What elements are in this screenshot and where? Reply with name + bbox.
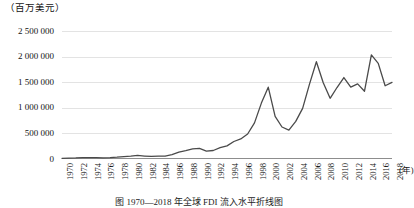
y-axis-tick-label: 1 000 000 (0, 103, 54, 112)
series-line-chart (62, 31, 392, 159)
x-axis-tick-label: 1988 (190, 163, 199, 180)
x-axis-tick-label: 1984 (162, 163, 171, 180)
x-axis-tick-label: 1990 (204, 163, 213, 180)
x-axis-tick-label: 2000 (272, 163, 281, 180)
x-axis-tick-label: 2006 (314, 163, 323, 180)
x-axis-tick-label: 2010 (341, 163, 350, 180)
x-axis-unit-label: (年) (399, 166, 414, 175)
y-axis-tick-label: 500 000 (0, 129, 54, 138)
x-axis-tick-label: 2004 (300, 163, 309, 180)
figure-caption: 图 1970—2018 年全球 FDI 流入水平折线图 (0, 197, 398, 208)
y-axis-tick-label: 2 500 000 (0, 27, 54, 36)
x-axis-tick-label: 1972 (80, 163, 89, 180)
series-line-path (62, 55, 392, 158)
x-axis-tick-label: 1982 (149, 163, 158, 180)
x-axis-tick-label: 2014 (369, 163, 378, 180)
x-axis-tick-label: 1994 (231, 163, 240, 180)
x-axis-tick-label: 1970 (66, 163, 75, 180)
x-axis-tick-label: 1980 (135, 163, 144, 180)
x-axis-tick-label: 1978 (121, 163, 130, 180)
x-axis-tick-label: 1974 (94, 163, 103, 180)
x-axis-tick-label: 1998 (259, 163, 268, 180)
x-axis-tick-label: 1986 (176, 163, 185, 180)
y-axis-tick-label: 1 500 000 (0, 78, 54, 87)
x-axis-tick-label: 1976 (107, 163, 116, 180)
x-axis-tick-label: 2012 (355, 163, 364, 180)
x-axis-tick-label: 2002 (286, 163, 295, 180)
y-axis-tick-label: 0 (0, 155, 54, 164)
x-axis-tick-label: 2016 (382, 163, 391, 180)
plot-area (62, 31, 392, 159)
x-axis-tick-label: 2008 (327, 163, 336, 180)
y-axis-tick-label: 2 000 000 (0, 52, 54, 61)
y-axis-unit-label: （百万美元） (5, 2, 65, 14)
x-axis-tick-label: 1992 (217, 163, 226, 180)
x-axis-tick-label: 1996 (245, 163, 254, 180)
